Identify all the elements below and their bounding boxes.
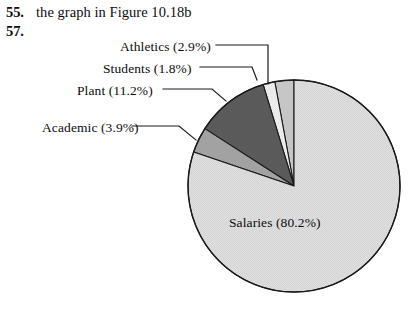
leader-line-students xyxy=(200,67,257,80)
pie-texture-overlay xyxy=(188,80,400,292)
leader-line-plant xyxy=(163,89,226,101)
page-canvas: 55. the graph in Figure 10.18b 57. xyxy=(0,0,412,314)
leader-line-athletics xyxy=(216,45,268,84)
pie-chart-figure: Athletics (2.9%) Students (1.8%) Plant (… xyxy=(0,0,412,314)
pie-callout-label-plant: Plant (11.2%) xyxy=(77,84,153,98)
pie-callout-label-students: Students (1.8%) xyxy=(103,62,192,76)
leader-line-academic xyxy=(132,126,196,140)
pie-slice-label-salaries: Salaries (80.2%) xyxy=(229,216,321,230)
pie-callout-label-athletics: Athletics (2.9%) xyxy=(120,40,211,54)
pie-callout-label-academic: Academic (3.9%) xyxy=(42,121,139,135)
